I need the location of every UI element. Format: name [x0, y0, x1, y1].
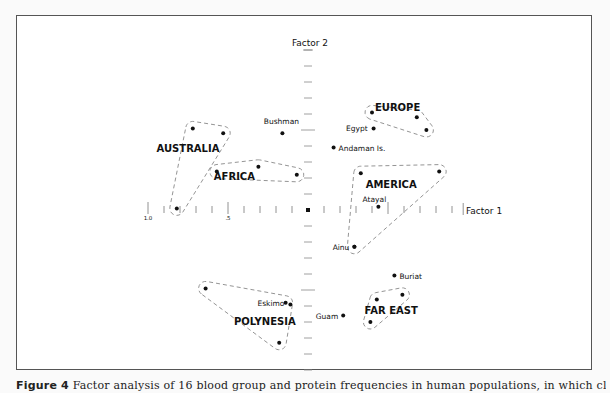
data-point — [295, 173, 299, 177]
data-point — [359, 171, 363, 175]
point-label: Guam — [316, 312, 338, 321]
data-point — [221, 131, 225, 135]
point-labels: AUSTRALIAAFRICAEUROPEAMERICAFAR EASTPOLY… — [157, 102, 422, 327]
data-point — [370, 110, 374, 114]
data-point — [368, 320, 372, 324]
y-axis-label: Factor 2 — [292, 38, 328, 48]
data-point — [256, 165, 260, 169]
point-label: Eskimo — [257, 299, 284, 308]
data-point — [392, 274, 396, 278]
cluster-label: AMERICA — [366, 179, 417, 190]
cluster-outline — [170, 121, 230, 215]
caption-text: Factor analysis of 16 blood group and pr… — [69, 379, 606, 392]
cluster-label: EUROPE — [375, 102, 420, 113]
caption-prefix: Figure 4 — [16, 379, 69, 392]
data-point — [352, 245, 356, 249]
point-label: Egypt — [346, 124, 368, 133]
data-point — [372, 126, 376, 130]
data-point — [204, 286, 208, 290]
origin-marker — [306, 208, 310, 212]
data-point — [277, 341, 281, 345]
data-point — [400, 293, 404, 297]
figure-caption: Figure 4 Factor analysis of 16 blood gro… — [16, 379, 606, 393]
point-label: Bushman — [264, 117, 299, 126]
data-point — [437, 170, 441, 174]
x-tick-label: .5 — [225, 215, 231, 221]
x-axis-label: Factor 1 — [466, 206, 502, 216]
point-label: Ainu — [333, 243, 350, 252]
data-point — [424, 128, 428, 132]
cluster-label: AFRICA — [214, 171, 255, 182]
cluster-label: POLYNESIA — [234, 316, 296, 327]
data-point — [375, 298, 379, 302]
data-point — [332, 146, 336, 150]
cluster-label: FAR EAST — [365, 305, 418, 316]
data-point — [191, 126, 195, 130]
point-label: Atayal — [363, 195, 387, 204]
data-point — [175, 206, 179, 210]
data-point — [280, 131, 284, 135]
point-label: Buriat — [399, 272, 422, 281]
cluster-label: AUSTRALIA — [157, 143, 220, 154]
data-point — [288, 302, 292, 306]
data-point — [376, 205, 380, 209]
point-label: Andaman Is. — [339, 144, 386, 153]
data-point — [415, 115, 419, 119]
axes: 1.0.5 — [144, 50, 464, 370]
x-tick-label: 1.0 — [144, 215, 153, 221]
data-point — [341, 314, 345, 318]
